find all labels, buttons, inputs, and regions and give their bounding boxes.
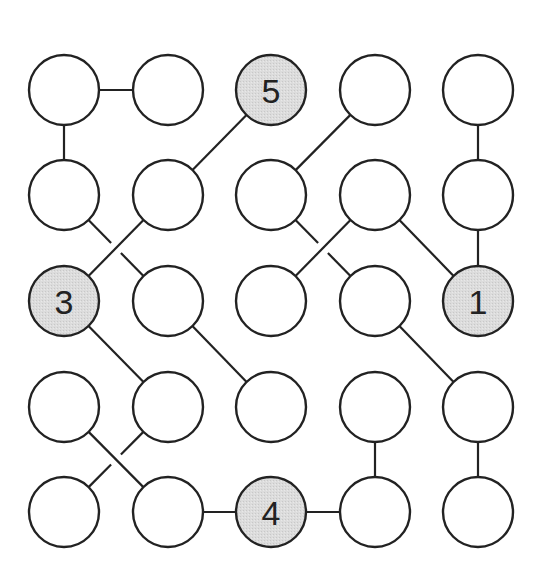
node-circle[interactable] [340, 160, 410, 230]
node-circle[interactable] [133, 55, 203, 125]
empty-node[interactable] [29, 477, 99, 547]
node-circle[interactable] [133, 477, 203, 547]
empty-node[interactable] [133, 477, 203, 547]
empty-node[interactable] [29, 55, 99, 125]
node-circle[interactable] [443, 55, 513, 125]
empty-node[interactable] [133, 266, 203, 336]
empty-node[interactable] [133, 372, 203, 442]
node-circle[interactable] [236, 266, 306, 336]
empty-node[interactable] [443, 372, 513, 442]
connection-line [89, 464, 111, 487]
empty-node[interactable] [236, 266, 306, 336]
empty-node[interactable] [340, 55, 410, 125]
clue-number: 5 [262, 72, 281, 110]
empty-node[interactable] [340, 266, 410, 336]
node-circle[interactable] [133, 266, 203, 336]
puzzle-board: 5314 [0, 0, 547, 584]
node-circle[interactable] [443, 372, 513, 442]
clue-number: 4 [262, 494, 281, 532]
node-circle[interactable] [236, 372, 306, 442]
empty-node[interactable] [340, 477, 410, 547]
clue-node[interactable]: 4 [236, 477, 306, 547]
empty-node[interactable] [133, 55, 203, 125]
node-circle[interactable] [29, 477, 99, 547]
node-circle[interactable] [340, 55, 410, 125]
connection-line [328, 253, 351, 276]
connection-line [89, 220, 112, 243]
empty-node[interactable] [340, 160, 410, 230]
connection-line [193, 115, 247, 170]
node-circle[interactable] [340, 266, 410, 336]
connection-line [296, 220, 319, 243]
empty-node[interactable] [133, 160, 203, 230]
empty-node[interactable] [29, 160, 99, 230]
node-circle[interactable] [443, 477, 513, 547]
empty-node[interactable] [340, 372, 410, 442]
node-circle[interactable] [340, 372, 410, 442]
connection-line [89, 326, 144, 382]
clue-node[interactable]: 5 [236, 55, 306, 125]
connection-line [399, 220, 453, 276]
connection-line [121, 253, 144, 276]
clue-node[interactable]: 1 [443, 266, 513, 336]
clue-node[interactable]: 3 [29, 266, 99, 336]
empty-node[interactable] [443, 477, 513, 547]
node-circle[interactable] [29, 372, 99, 442]
connection-line [192, 326, 246, 382]
connection-line [296, 115, 351, 170]
empty-node[interactable] [443, 160, 513, 230]
node-circle[interactable] [29, 55, 99, 125]
connection-line [399, 326, 453, 382]
connection-line [121, 432, 143, 455]
empty-node[interactable] [236, 372, 306, 442]
node-circle[interactable] [133, 160, 203, 230]
clue-number: 1 [469, 283, 488, 321]
empty-node[interactable] [29, 372, 99, 442]
node-circle[interactable] [340, 477, 410, 547]
clue-number: 3 [55, 283, 74, 321]
node-circle[interactable] [133, 372, 203, 442]
node-circle[interactable] [236, 160, 306, 230]
empty-node[interactable] [443, 55, 513, 125]
empty-node[interactable] [236, 160, 306, 230]
node-circle[interactable] [443, 160, 513, 230]
node-circle[interactable] [29, 160, 99, 230]
